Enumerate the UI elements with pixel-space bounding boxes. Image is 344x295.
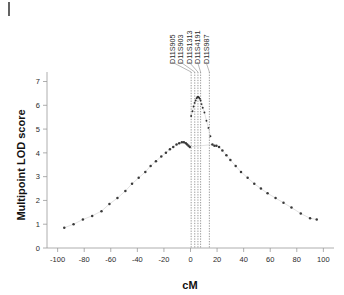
figure-panel: D11S905D11S903D11S1313D11S4191D11S987 -1… <box>0 0 344 295</box>
x-tick-label: 80 <box>293 255 301 264</box>
data-point <box>290 206 293 209</box>
data-point <box>309 217 312 220</box>
data-point <box>204 111 206 113</box>
data-point <box>108 203 111 206</box>
data-point <box>193 106 195 108</box>
data-point <box>209 135 211 137</box>
data-point <box>178 142 181 145</box>
data-point <box>144 171 147 174</box>
data-point <box>201 103 203 105</box>
x-tick-label: 0 <box>188 255 192 264</box>
data-point <box>190 115 192 117</box>
marker-label-group: D11S905D11S903D11S1313D11S4191D11S987 <box>168 31 211 64</box>
data-point <box>215 144 218 147</box>
y-tick-label: 1 <box>36 220 40 229</box>
data-point <box>72 223 75 226</box>
data-point <box>63 227 66 230</box>
data-point <box>253 183 256 186</box>
data-point <box>91 215 94 218</box>
y-tick-label: 3 <box>36 172 40 181</box>
data-point <box>260 187 263 190</box>
data-point <box>160 155 163 158</box>
data-point <box>207 127 209 129</box>
x-tick-label: -40 <box>132 255 143 264</box>
data-point <box>116 197 119 200</box>
y-tick-label: 6 <box>36 101 40 110</box>
y-tick-label: 4 <box>36 149 40 158</box>
data-point <box>137 177 140 180</box>
data-point <box>100 210 103 213</box>
data-point <box>82 218 85 221</box>
lod-score-plot: D11S905D11S903D11S1313D11S4191D11S987 -1… <box>0 0 344 295</box>
data-point <box>131 183 134 186</box>
data-point <box>202 107 204 109</box>
x-axis-title: cM <box>182 279 197 291</box>
data-point <box>218 146 221 149</box>
y-tick-label: 5 <box>36 125 40 134</box>
x-tick-label: -100 <box>50 255 65 264</box>
data-point <box>315 218 318 221</box>
data-point <box>175 143 178 146</box>
x-tick-label: 20 <box>213 255 221 264</box>
x-tick-label: 100 <box>317 255 330 264</box>
data-point <box>189 146 192 149</box>
data-point <box>205 120 207 122</box>
y-tick-label: 2 <box>36 196 40 205</box>
axis-group: -100-80-60-40-2002040608010001234567 <box>36 72 334 264</box>
data-point <box>266 192 269 195</box>
marker-label-d11s987: D11S987 <box>202 35 211 64</box>
data-point <box>274 197 277 200</box>
data-point <box>200 100 202 102</box>
data-point-group <box>63 96 318 229</box>
data-point <box>221 149 224 152</box>
data-point <box>195 100 197 102</box>
base-curve-trace <box>64 142 316 228</box>
data-point <box>124 190 127 193</box>
data-point <box>229 159 232 162</box>
data-point <box>234 165 237 168</box>
data-point <box>155 160 158 163</box>
data-point <box>194 102 196 104</box>
x-tick-label: 60 <box>266 255 274 264</box>
y-axis-title: Multipoint LOD score <box>15 109 27 220</box>
x-tick-label: -20 <box>159 255 170 264</box>
y-tick-label: 7 <box>36 77 40 86</box>
data-point <box>172 146 175 149</box>
y-tick-label: 0 <box>36 244 40 253</box>
data-point <box>165 152 168 155</box>
data-point <box>240 171 243 174</box>
data-point <box>169 148 172 151</box>
x-tick-label: 40 <box>239 255 247 264</box>
data-point <box>199 98 201 100</box>
x-tick-label: -80 <box>79 255 90 264</box>
data-point <box>192 110 194 112</box>
x-tick-label: -60 <box>105 255 116 264</box>
data-point <box>149 165 152 168</box>
data-point <box>282 202 285 205</box>
data-point <box>225 154 228 157</box>
data-point <box>246 177 249 180</box>
data-point <box>300 212 303 215</box>
